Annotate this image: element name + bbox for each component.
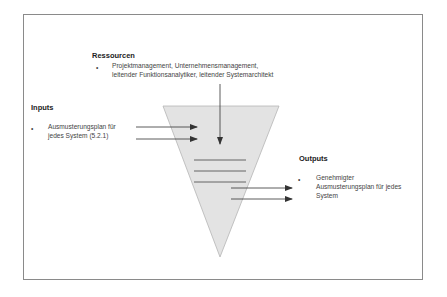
resources-title: Ressourcen — [92, 51, 135, 60]
resources-text: Projektmanagement, Unternehmensmanagemen… — [112, 61, 273, 79]
outputs-title: Outputs — [299, 154, 328, 163]
outputs-line-1: Genehmigter — [316, 173, 401, 182]
inputs-line-1: Ausmusterungsplan für — [48, 122, 116, 131]
inputs-title: Inputs — [31, 103, 54, 112]
outputs-bullet: • — [298, 176, 300, 183]
inputs-text: Ausmusterungsplan für jedes System (5.2.… — [48, 122, 116, 140]
resources-bullet: • — [96, 64, 98, 71]
resources-line-2: leitender Funktionsanalytiker, leitender… — [112, 70, 273, 79]
outputs-line-2: Ausmusterungsplan für jedes — [316, 182, 401, 191]
funnel-shape — [163, 106, 279, 257]
inputs-line-2: jedes System (5.2.1) — [48, 131, 116, 140]
outputs-text: Genehmigter Ausmusterungsplan für jedes … — [316, 173, 401, 200]
funnel-diagram — [0, 0, 447, 297]
resources-line-1: Projektmanagement, Unternehmensmanagemen… — [112, 61, 273, 70]
inputs-bullet: • — [31, 125, 33, 132]
outputs-line-3: System — [316, 191, 401, 200]
